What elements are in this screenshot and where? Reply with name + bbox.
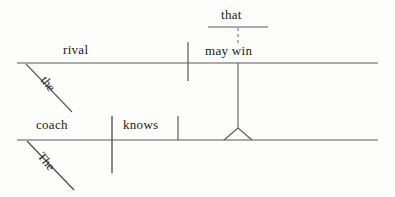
- subject-label: coach: [36, 118, 68, 131]
- verb-label: knows: [123, 118, 158, 131]
- triangle-right-leg: [238, 128, 252, 140]
- relative-verb-label: may win: [205, 44, 252, 57]
- triangle-left-leg: [224, 128, 238, 140]
- diagram-lines-svg: [0, 0, 395, 197]
- sentence-diagram-canvas: rival may win that coach knows the The: [0, 0, 395, 197]
- object-noun-label: rival: [63, 43, 88, 56]
- relative-pronoun-label: that: [221, 8, 242, 21]
